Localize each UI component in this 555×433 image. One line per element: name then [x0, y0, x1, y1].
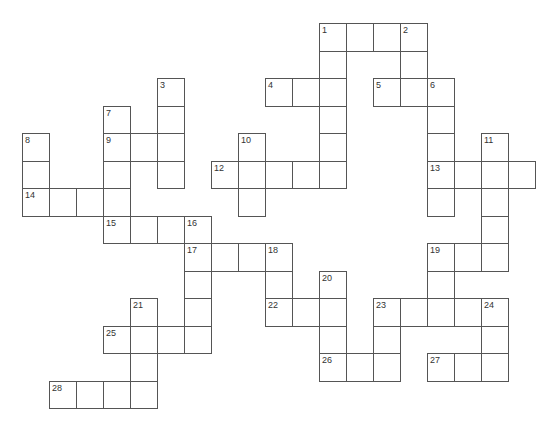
crossword-cell[interactable]: [319, 106, 347, 135]
crossword-cell[interactable]: 14: [22, 188, 50, 217]
crossword-cell[interactable]: [373, 353, 401, 382]
crossword-cell[interactable]: 15: [103, 216, 131, 245]
crossword-cell[interactable]: 13: [427, 161, 455, 190]
crossword-cell[interactable]: [292, 298, 320, 327]
clue-number: 18: [268, 245, 278, 255]
clue-number: 11: [484, 135, 493, 145]
crossword-cell[interactable]: [400, 51, 428, 80]
crossword-cell[interactable]: [22, 161, 50, 190]
crossword-cell[interactable]: [184, 271, 212, 300]
crossword-cell[interactable]: [373, 23, 401, 52]
clue-number: 27: [430, 355, 440, 365]
clue-number: 13: [430, 163, 440, 173]
crossword-cell[interactable]: [319, 133, 347, 162]
crossword-cell[interactable]: 17: [184, 243, 212, 272]
crossword-cell[interactable]: [292, 78, 320, 107]
crossword-cell[interactable]: 1: [319, 23, 347, 52]
crossword-cell[interactable]: [157, 106, 185, 135]
crossword-cell[interactable]: 2: [400, 23, 428, 52]
crossword-cell[interactable]: 25: [103, 326, 131, 355]
crossword-cell[interactable]: 21: [130, 298, 158, 327]
crossword-cell[interactable]: [481, 353, 509, 382]
crossword-cell[interactable]: [319, 51, 347, 80]
crossword-cell[interactable]: 28: [49, 381, 77, 410]
crossword-cell[interactable]: [319, 78, 347, 107]
crossword-cell[interactable]: 11: [481, 133, 509, 162]
crossword-cell[interactable]: [157, 133, 185, 162]
crossword-cell[interactable]: 6: [427, 78, 455, 107]
crossword-cell[interactable]: 26: [319, 353, 347, 382]
crossword-cell[interactable]: [427, 188, 455, 217]
crossword-cell[interactable]: [454, 298, 482, 327]
crossword-cell[interactable]: [157, 216, 185, 245]
crossword-cell[interactable]: [427, 106, 455, 135]
crossword-cell[interactable]: [427, 298, 455, 327]
crossword-cell[interactable]: [49, 188, 77, 217]
crossword-cell[interactable]: [76, 381, 104, 410]
clue-number: 12: [214, 163, 224, 173]
clue-number: 4: [268, 80, 273, 90]
crossword-cell[interactable]: [346, 353, 374, 382]
crossword-cell[interactable]: [103, 188, 131, 217]
crossword-cell[interactable]: 19: [427, 243, 455, 272]
crossword-cell[interactable]: [211, 243, 239, 272]
crossword-cell[interactable]: 18: [265, 243, 293, 272]
crossword-cell[interactable]: [427, 133, 455, 162]
crossword-cell[interactable]: 22: [265, 298, 293, 327]
crossword-cell[interactable]: [319, 161, 347, 190]
clue-number: 8: [25, 135, 30, 145]
crossword-cell[interactable]: [373, 326, 401, 355]
crossword-cell[interactable]: [130, 326, 158, 355]
clue-number: 23: [376, 300, 386, 310]
crossword-cell[interactable]: 8: [22, 133, 50, 162]
crossword-cell[interactable]: [319, 326, 347, 355]
crossword-cell[interactable]: [103, 381, 131, 410]
crossword-cell[interactable]: 4: [265, 78, 293, 107]
crossword-cell[interactable]: 16: [184, 216, 212, 245]
crossword-cell[interactable]: [103, 161, 131, 190]
crossword-cell[interactable]: 9: [103, 133, 131, 162]
crossword-cell[interactable]: [130, 216, 158, 245]
crossword-cell[interactable]: [238, 188, 266, 217]
crossword-cell[interactable]: [400, 298, 428, 327]
crossword-cell[interactable]: 12: [211, 161, 239, 190]
crossword-cell[interactable]: [184, 326, 212, 355]
crossword-cell[interactable]: [157, 326, 185, 355]
crossword-cell[interactable]: [130, 353, 158, 382]
crossword-cell[interactable]: [319, 298, 347, 327]
crossword-cell[interactable]: 7: [103, 106, 131, 135]
crossword-cell[interactable]: [130, 381, 158, 410]
crossword-cell[interactable]: [400, 78, 428, 107]
crossword-cell[interactable]: [481, 188, 509, 217]
clue-number: 26: [322, 355, 332, 365]
crossword-cell[interactable]: 5: [373, 78, 401, 107]
crossword-cell[interactable]: [481, 243, 509, 272]
crossword-cell[interactable]: [130, 133, 158, 162]
crossword-cell[interactable]: 3: [157, 78, 185, 107]
crossword-cell[interactable]: [508, 161, 536, 190]
crossword-cell[interactable]: [265, 161, 293, 190]
crossword-cell[interactable]: 10: [238, 133, 266, 162]
crossword-cell[interactable]: 23: [373, 298, 401, 327]
clue-number: 5: [376, 80, 381, 90]
crossword-cell[interactable]: [454, 353, 482, 382]
crossword-cell[interactable]: [157, 161, 185, 190]
crossword-cell[interactable]: [76, 188, 104, 217]
crossword-cell[interactable]: [238, 161, 266, 190]
crossword-cell[interactable]: [454, 161, 482, 190]
crossword-cell[interactable]: [481, 326, 509, 355]
crossword-cell[interactable]: 27: [427, 353, 455, 382]
crossword-cell[interactable]: [454, 243, 482, 272]
crossword-cell[interactable]: 24: [481, 298, 509, 327]
crossword-cell[interactable]: [238, 243, 266, 272]
crossword-cell[interactable]: [346, 23, 374, 52]
crossword-cell[interactable]: [292, 161, 320, 190]
crossword-cell[interactable]: [265, 271, 293, 300]
clue-number: 3: [160, 80, 165, 90]
crossword-cell[interactable]: 20: [319, 271, 347, 300]
clue-number: 14: [25, 190, 35, 200]
crossword-cell[interactable]: [481, 216, 509, 245]
crossword-cell[interactable]: [481, 161, 509, 190]
crossword-cell[interactable]: [427, 271, 455, 300]
crossword-cell[interactable]: [184, 298, 212, 327]
